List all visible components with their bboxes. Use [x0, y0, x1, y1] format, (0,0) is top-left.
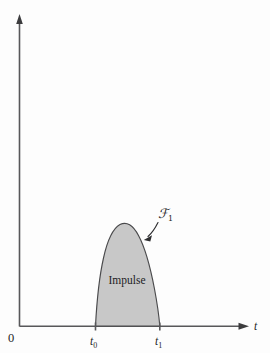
impulse-region-label: Impulse	[108, 274, 145, 287]
x-axis-label: t	[254, 320, 258, 332]
force-curve-label: ℱ1	[158, 206, 173, 223]
tick-label-t0-subscript: 0	[93, 341, 97, 350]
figure-canvas: 0 t t0 t1 Impulse ℱ1	[0, 0, 270, 353]
x-axis-arrowhead	[239, 323, 250, 330]
tick-label-t1: t1	[155, 335, 162, 350]
annotation-leader-line	[148, 223, 158, 237]
tick-label-t0: t0	[90, 335, 97, 350]
origin-label: 0	[8, 331, 14, 345]
y-axis-arrowhead	[16, 14, 23, 24]
force-curve-label-subscript: 1	[168, 214, 173, 223]
tick-label-t1-subscript: 1	[158, 341, 162, 350]
impulse-figure: 0 t t0 t1 Impulse ℱ1	[0, 0, 270, 353]
